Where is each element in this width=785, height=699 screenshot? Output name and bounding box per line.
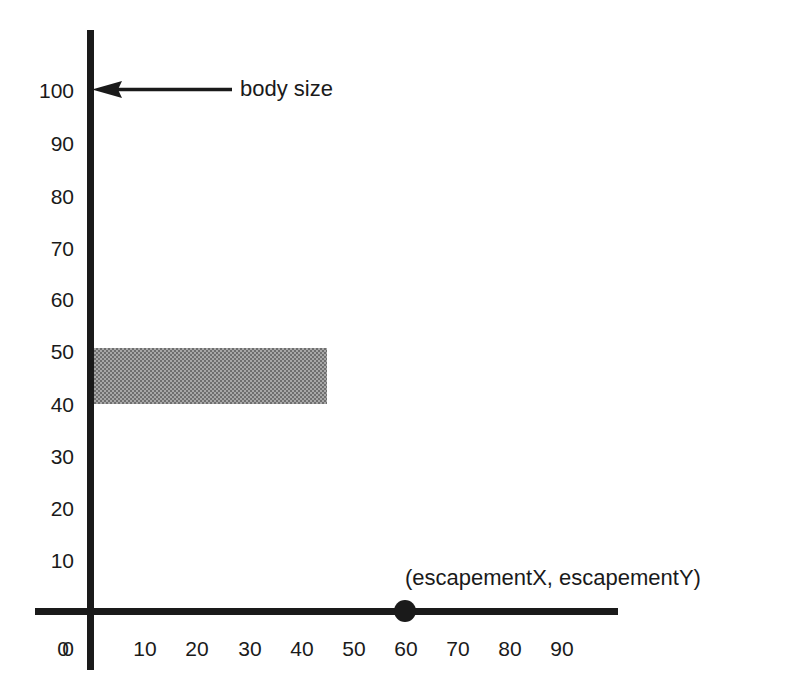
x-tick-label-90: 90 [550, 638, 573, 659]
y-tick-label-100: 100 [18, 80, 74, 101]
x-tick-label-40: 40 [290, 638, 313, 659]
y-tick-label-90: 90 [18, 133, 74, 154]
x-tick-label-80: 80 [498, 638, 521, 659]
x-tick-label-0: 0 [57, 638, 69, 659]
coordinate-plot [0, 0, 785, 699]
y-tick-label-40: 40 [18, 394, 74, 415]
body-size-arrow-head [92, 81, 122, 98]
y-tick-label-60: 60 [18, 289, 74, 310]
escapement-point-marker [394, 600, 416, 622]
body-size-rectangle [91, 348, 327, 404]
x-tick-label-20: 20 [185, 638, 208, 659]
diagram-canvas: 100 90 80 70 60 50 40 30 20 10 0 0 10 20… [0, 0, 785, 699]
y-tick-label-50: 50 [18, 341, 74, 362]
y-tick-label-70: 70 [18, 238, 74, 259]
x-tick-label-70: 70 [446, 638, 469, 659]
body-size-label: body size [240, 78, 333, 100]
escapement-point-label: (escapementX, escapementY) [405, 567, 701, 589]
y-tick-label-20: 20 [18, 498, 74, 519]
x-tick-label-10: 10 [133, 638, 156, 659]
x-tick-label-60: 60 [394, 638, 417, 659]
y-tick-label-80: 80 [18, 186, 74, 207]
y-tick-label-10: 10 [18, 550, 74, 571]
y-tick-label-30: 30 [18, 446, 74, 467]
x-tick-label-50: 50 [342, 638, 365, 659]
x-tick-label-30: 30 [238, 638, 261, 659]
